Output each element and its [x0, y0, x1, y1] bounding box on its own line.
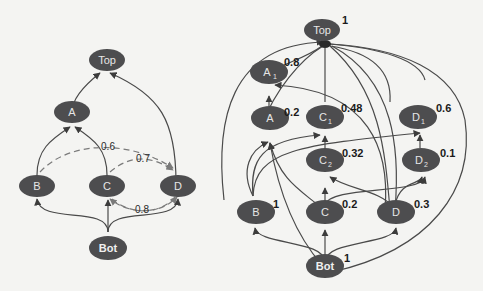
svg-text:1: 1 [328, 118, 332, 125]
weight-bot: 1 [344, 252, 350, 264]
svg-text:D: D [392, 206, 400, 218]
lattice-diagrams: 0.6 0.7 0.8 Top A B C D Bot [0, 0, 483, 291]
svg-text:Top: Top [313, 24, 331, 36]
svg-text:C: C [321, 206, 329, 218]
svg-text:B: B [252, 206, 259, 218]
figure-canvas: 0.6 0.7 0.8 Top A B C D Bot [0, 0, 483, 291]
svg-text:A: A [266, 112, 274, 124]
edge-label-0-7: 0.7 [136, 153, 150, 164]
top-arrow-cluster [319, 40, 331, 48]
svg-text:A: A [263, 66, 271, 78]
svg-text:2: 2 [424, 161, 428, 168]
svg-text:1: 1 [421, 118, 425, 125]
weight-c: 0.2 [342, 198, 357, 210]
svg-text:D: D [412, 111, 420, 123]
edge-label-0-8: 0.8 [135, 204, 149, 215]
weight-a: 0.2 [284, 106, 299, 118]
weight-c1: 0.48 [341, 102, 362, 114]
weight-d: 0.3 [414, 198, 429, 210]
weight-a1: 0.8 [284, 56, 299, 68]
edge-label-0-6: 0.6 [101, 141, 115, 152]
svg-text:D: D [174, 180, 182, 192]
node-d: D [160, 175, 196, 197]
svg-text:C: C [103, 180, 111, 192]
node-a: A [54, 101, 90, 123]
bleed-through-text [0, 0, 483, 291]
svg-text:2: 2 [328, 161, 332, 168]
node-c: C [89, 175, 125, 197]
svg-text:B: B [33, 180, 40, 192]
svg-text:Bot: Bot [316, 260, 335, 272]
svg-text:1: 1 [273, 73, 277, 80]
node-bot: Bot [89, 236, 127, 260]
svg-text:Top: Top [98, 54, 116, 66]
svg-text:Bot: Bot [99, 242, 118, 254]
svg-text:C: C [319, 111, 327, 123]
weight-top: 1 [342, 14, 348, 26]
svg-text:C: C [319, 154, 327, 166]
node-b: B [19, 175, 55, 197]
node-top: Top [89, 49, 125, 71]
weight-d1: 0.6 [436, 102, 451, 114]
weight-c2: 0.32 [342, 147, 363, 159]
svg-text:A: A [68, 106, 76, 118]
weight-b: 1 [273, 198, 279, 210]
weight-d2: 0.1 [440, 147, 455, 159]
svg-text:D: D [415, 154, 423, 166]
